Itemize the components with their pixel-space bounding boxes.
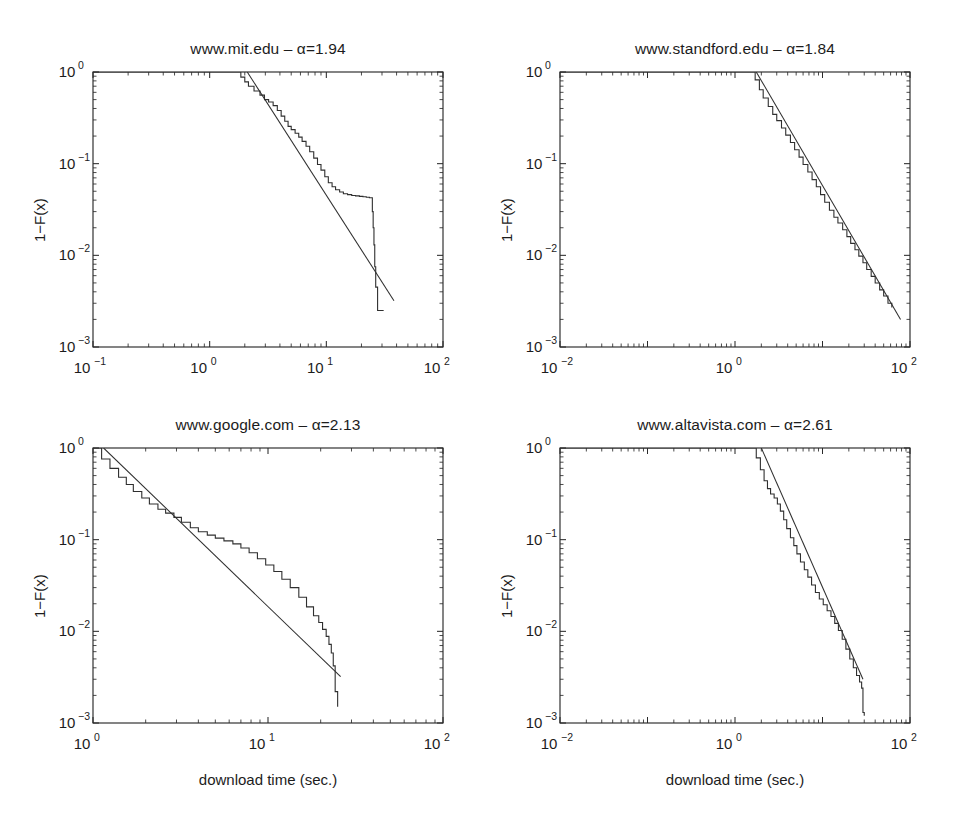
y-tick-label-exponent: −1 bbox=[545, 527, 557, 539]
y-tick-label: 10 bbox=[526, 714, 543, 731]
plot-frame bbox=[560, 448, 910, 723]
x-tick-label: 10 bbox=[891, 735, 908, 752]
y-axis-label-bottom-right: 1−F(x) bbox=[498, 574, 515, 618]
y-tick-label: 10 bbox=[526, 439, 543, 456]
x-tick-label-exponent: −2 bbox=[561, 731, 573, 743]
series-powerlaw-fit bbox=[761, 448, 863, 679]
y-tick-label-exponent: −3 bbox=[545, 710, 557, 722]
figure-four-panel-ccdf: www.mit.edu – α=1.941−F(x)10−11001011021… bbox=[0, 0, 956, 833]
y-tick-label-exponent: −2 bbox=[545, 618, 557, 630]
panel-title-www.altavista.com: www.altavista.com – α=2.61 bbox=[500, 416, 956, 434]
x-tick-label-exponent: 0 bbox=[736, 731, 742, 743]
series-empirical-ccdf bbox=[560, 448, 864, 716]
x-tick-label: 10 bbox=[541, 735, 558, 752]
y-tick-label-exponent: 0 bbox=[545, 435, 551, 447]
y-tick-label: 10 bbox=[526, 531, 543, 548]
y-tick-label: 10 bbox=[526, 622, 543, 639]
x-axis-label-bottom-right: download time (sec.) bbox=[560, 771, 910, 788]
x-tick-label-exponent: 2 bbox=[911, 731, 917, 743]
plot-panel-bottom-right: www.altavista.com – α=2.611−F(x)download… bbox=[0, 0, 956, 833]
x-tick-label: 10 bbox=[716, 735, 733, 752]
